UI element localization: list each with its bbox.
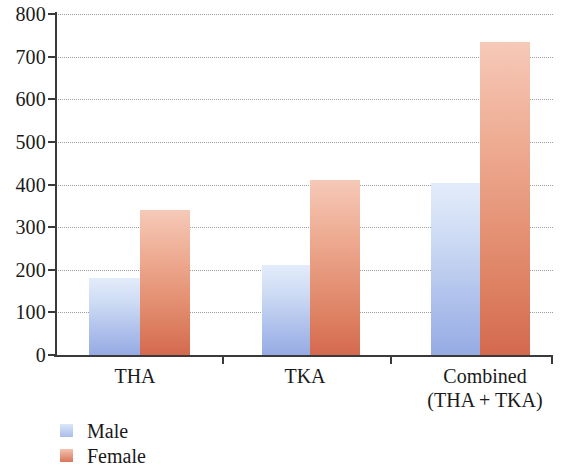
x-tick-mark-1 xyxy=(222,356,224,364)
bar-tka-female xyxy=(310,180,360,355)
x-axis-label-combined-line1: Combined xyxy=(415,364,555,388)
x-axis-label-tka-line1: TKA xyxy=(250,364,360,388)
bar-combined-male xyxy=(431,183,480,355)
y-tick-label-600: 600 xyxy=(2,89,46,109)
y-tick-mark-500 xyxy=(48,141,56,143)
y-tick-mark-600 xyxy=(48,98,56,100)
x-axis-label-tha-line1: THA xyxy=(80,364,190,388)
y-tick-mark-300 xyxy=(48,226,56,228)
x-axis-label-combined-line2: (THA + TKA) xyxy=(415,388,555,412)
y-tick-label-0: 0 xyxy=(2,345,46,365)
y-tick-mark-400 xyxy=(48,184,56,186)
y-axis-tick-labels: 800 700 600 500 400 300 200 100 0 xyxy=(0,0,46,468)
y-tick-mark-100 xyxy=(48,311,56,313)
bar-tha-male xyxy=(89,278,140,355)
y-tick-label-800: 800 xyxy=(2,4,46,24)
y-tick-label-700: 700 xyxy=(2,47,46,67)
gridline-500 xyxy=(55,142,553,143)
y-tick-label-100: 100 xyxy=(2,302,46,322)
plot-area xyxy=(55,14,553,355)
x-axis-label-tha: THA xyxy=(80,364,190,388)
y-tick-mark-200 xyxy=(48,269,56,271)
female-color-swatch xyxy=(60,449,73,462)
y-tick-mark-800 xyxy=(48,13,56,15)
male-color-swatch xyxy=(60,424,73,437)
x-tick-mark-3 xyxy=(551,356,553,364)
y-tick-label-500: 500 xyxy=(2,132,46,152)
legend: Male Female xyxy=(60,418,146,468)
y-tick-label-400: 400 xyxy=(2,175,46,195)
y-tick-mark-700 xyxy=(48,56,56,58)
legend-label-male: Male xyxy=(87,421,128,441)
y-tick-mark-0 xyxy=(48,354,56,356)
bar-chart: 800 700 600 500 400 300 200 100 0 THA TK… xyxy=(0,0,563,468)
y-tick-label-200: 200 xyxy=(2,260,46,280)
legend-label-female: Female xyxy=(87,446,146,466)
bar-combined-female xyxy=(480,42,530,355)
x-axis-line xyxy=(54,355,553,357)
x-axis-label-tka: TKA xyxy=(250,364,360,388)
gridline-800 xyxy=(55,14,553,15)
y-tick-label-300: 300 xyxy=(2,217,46,237)
legend-item-male: Male xyxy=(60,418,146,443)
bar-tka-male xyxy=(262,265,310,355)
x-axis-label-combined: Combined (THA + TKA) xyxy=(415,364,555,412)
gridline-700 xyxy=(55,57,553,58)
gridline-600 xyxy=(55,99,553,100)
bar-tha-female xyxy=(140,210,190,355)
x-tick-mark-2 xyxy=(390,356,392,364)
legend-item-female: Female xyxy=(60,443,146,468)
